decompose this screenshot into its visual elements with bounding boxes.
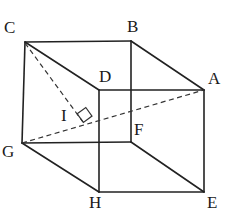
vertex-label-E: E — [207, 194, 217, 211]
edge-C-B — [25, 41, 131, 42]
edge-C-D — [25, 42, 99, 90]
vertex-label-C: C — [4, 19, 15, 36]
vertex-label-F: F — [134, 121, 143, 138]
edge-G-H — [22, 143, 99, 192]
vertex-label-G: G — [2, 143, 14, 160]
edge-B-A — [131, 41, 204, 90]
edge-F-E — [131, 142, 204, 192]
edge-C-G — [22, 42, 25, 143]
diagonal-G-A — [22, 90, 204, 143]
geometry-figure: C B D A I G F H E — [0, 0, 237, 215]
edge-G-F — [22, 142, 131, 143]
perpendicular-C-I — [25, 43, 83, 122]
right-angle-at-I-icon — [77, 108, 92, 123]
vertex-label-D: D — [99, 68, 111, 85]
vertex-label-A: A — [208, 70, 220, 87]
vertex-label-H: H — [89, 194, 101, 211]
vertex-label-I: I — [61, 107, 67, 124]
vertex-label-B: B — [127, 18, 138, 35]
prism-diagram-svg — [0, 0, 237, 215]
